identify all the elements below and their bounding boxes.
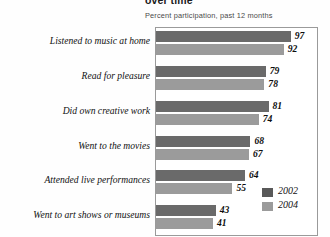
legend-swatch-icon <box>262 202 273 211</box>
bar-row: Did own creative work8174 <box>0 97 330 132</box>
bar-value-label: 74 <box>263 113 273 124</box>
category-label: Went to the movies <box>0 140 150 151</box>
bar-value-label: 92 <box>288 43 298 54</box>
bar-group: 9792 <box>156 27 318 62</box>
bar-2002[interactable] <box>156 170 245 181</box>
bar-value-label: 64 <box>249 169 259 180</box>
chart-figure: over time Percent participation, past 12… <box>0 0 330 237</box>
bar-row: Listened to music at home9792 <box>0 27 330 62</box>
legend-item[interactable]: 2002 <box>262 186 318 198</box>
bar-slot: 81 <box>156 101 318 112</box>
bar-value-label: 68 <box>254 135 264 146</box>
bar-2004[interactable] <box>156 79 264 90</box>
bar-2002[interactable] <box>156 101 269 112</box>
chart-legend: 20022004 <box>262 186 318 214</box>
category-label: Attended live performances <box>0 174 150 185</box>
bar-slot: 64 <box>156 170 318 181</box>
bar-slot: 74 <box>156 114 318 125</box>
bar-value-label: 43 <box>220 204 230 215</box>
category-label: Read for pleasure <box>0 70 150 81</box>
legend-item[interactable]: 2004 <box>262 200 318 212</box>
bar-group: 7978 <box>156 62 318 97</box>
chart-subtitle: Percent participation, past 12 months <box>145 11 330 20</box>
bar-slot: 97 <box>156 31 318 42</box>
bar-slot: 92 <box>156 44 318 55</box>
bar-2004[interactable] <box>156 44 284 55</box>
category-label: Listened to music at home <box>0 35 150 46</box>
bar-value-label: 78 <box>268 78 278 89</box>
bar-value-label: 97 <box>295 30 305 41</box>
bar-2002[interactable] <box>156 136 250 147</box>
bar-value-label: 41 <box>217 217 227 228</box>
bar-slot: 79 <box>156 66 318 77</box>
bar-2004[interactable] <box>156 149 249 160</box>
bar-group: 6867 <box>156 132 318 167</box>
bar-value-label: 67 <box>253 148 263 159</box>
bar-2004[interactable] <box>156 218 213 229</box>
bar-slot: 67 <box>156 149 318 160</box>
bar-2004[interactable] <box>156 114 259 125</box>
bar-value-label: 81 <box>273 100 283 111</box>
bar-row: Went to the movies6867 <box>0 132 330 167</box>
bar-2002[interactable] <box>156 205 216 216</box>
category-label: Went to art shows or museums <box>0 209 150 220</box>
bar-value-label: 79 <box>270 65 280 76</box>
bar-group: 8174 <box>156 97 318 132</box>
bar-slot: 68 <box>156 136 318 147</box>
bar-row: Read for pleasure7978 <box>0 62 330 97</box>
legend-label: 2002 <box>278 185 298 196</box>
bar-slot: 78 <box>156 79 318 90</box>
bar-slot: 41 <box>156 218 318 229</box>
category-label: Did own creative work <box>0 105 150 116</box>
bar-value-label: 55 <box>236 182 246 193</box>
chart-title: over time <box>145 0 325 6</box>
bar-2004[interactable] <box>156 183 232 194</box>
legend-swatch-icon <box>262 188 273 197</box>
legend-label: 2004 <box>278 199 298 210</box>
bar-2002[interactable] <box>156 66 266 77</box>
bar-2002[interactable] <box>156 31 291 42</box>
